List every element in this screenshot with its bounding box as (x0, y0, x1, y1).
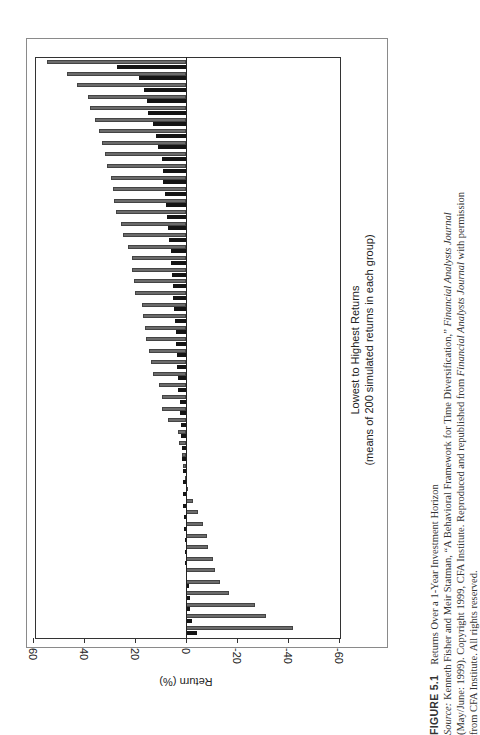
black-bar (166, 203, 186, 207)
plot-area (35, 57, 341, 639)
axis-tick-label: -60 (333, 648, 345, 664)
gray-bar (128, 245, 186, 249)
category-axis-title: Lowest to Highest Returns (348, 234, 362, 465)
axis-tick-label: 60 (27, 648, 39, 660)
axis-tick-label: 40 (78, 648, 90, 660)
black-bar (162, 157, 186, 161)
gray-bar (168, 418, 186, 422)
black-bar (144, 88, 186, 92)
black-bar (173, 284, 186, 288)
source-label: Source: (442, 703, 453, 735)
gray-bar (178, 430, 186, 434)
gray-bar (162, 407, 186, 411)
black-bar (178, 388, 186, 392)
black-bar (156, 134, 186, 138)
gray-bar (132, 268, 186, 272)
gray-bar (99, 129, 186, 133)
gray-bar (153, 372, 186, 376)
gray-bar (105, 152, 186, 156)
black-bar (169, 238, 186, 242)
black-bar (165, 192, 186, 196)
gray-bar (162, 395, 186, 399)
gray-bar (186, 614, 266, 618)
black-bar (177, 353, 186, 357)
source-text-2b: with permission (455, 192, 466, 259)
source-text-1: Kenneth Fisher and Meir Statman, “A Beha… (442, 329, 453, 700)
axis-tick (135, 638, 136, 643)
gray-bar (186, 591, 229, 595)
axis-tick-label: -20 (231, 648, 243, 664)
axis-tick-label: 0 (180, 648, 192, 654)
gray-bar (159, 383, 186, 387)
black-bar (147, 99, 186, 103)
gray-bar (143, 314, 186, 318)
black-bar (177, 365, 186, 369)
black-bar (176, 330, 186, 334)
gray-bar (114, 199, 186, 203)
gray-bar (102, 141, 186, 145)
value-axis-label: Return (%) (159, 676, 212, 688)
gray-bar (107, 164, 186, 168)
figure-title: Returns Over a 1-Year Investment Horizon (429, 484, 440, 665)
axis-tick (186, 638, 187, 643)
gray-bar (186, 603, 255, 607)
axis-tick-label: -40 (282, 648, 294, 664)
black-bar (163, 180, 186, 184)
figure-number: FIGURE 5.1 (428, 675, 440, 735)
gray-bar (186, 534, 207, 538)
black-bar (117, 65, 186, 69)
black-bar (167, 215, 186, 219)
black-bar (173, 296, 186, 300)
gray-bar (186, 568, 215, 572)
axis-tick (84, 638, 85, 643)
gray-bar (186, 522, 203, 526)
gray-bar (88, 95, 186, 99)
gray-bar (47, 60, 186, 64)
zero-axis-line (186, 57, 187, 639)
axis-tick (237, 638, 238, 643)
axis-tick-label: 20 (129, 648, 141, 660)
gray-bar (132, 256, 186, 260)
black-bar (139, 76, 186, 80)
gray-bar (111, 176, 186, 180)
black-bar (176, 342, 186, 346)
gray-bar (186, 545, 208, 549)
gray-bar (146, 337, 186, 341)
gray-bar (145, 326, 186, 330)
gray-bar (135, 291, 186, 295)
black-bar (186, 631, 197, 635)
gray-bar (142, 303, 186, 307)
gray-bar (186, 557, 213, 561)
axis-tick (288, 638, 289, 643)
source-text-2: (May/June: 1999). Copyright 1999, CFA In… (455, 379, 466, 735)
journal-name-1: Financial Analysts Journal (442, 212, 453, 326)
gray-bar (179, 441, 186, 445)
black-bar (178, 376, 186, 380)
gray-bar (151, 360, 186, 364)
gray-bar (186, 626, 293, 630)
gray-bar (123, 233, 186, 237)
axis-tick (33, 638, 34, 643)
black-bar (168, 226, 186, 230)
gray-bar (134, 279, 186, 283)
gray-bar (67, 72, 186, 76)
black-bar (153, 122, 186, 126)
black-bar (174, 307, 186, 311)
black-bar (158, 145, 186, 149)
gray-bar (113, 187, 186, 191)
gray-bar (121, 222, 186, 226)
category-axis-label: Lowest to Highest Returns (means of 200 … (348, 234, 376, 465)
black-bar (148, 111, 186, 115)
figure-caption: FIGURE 5.1Returns Over a 1-Year Investme… (428, 15, 480, 735)
gray-bar (90, 106, 186, 110)
black-bar (175, 319, 186, 323)
gray-bar (186, 510, 198, 514)
black-bar (163, 169, 186, 173)
axis-tick (339, 638, 340, 643)
category-axis-subtitle: (means of 200 simulated returns in each … (362, 234, 376, 465)
source-text-3: from CFA Institute. All rights reserved. (468, 570, 479, 735)
gray-bar (149, 349, 186, 353)
black-bar (171, 261, 186, 265)
gray-bar (77, 83, 186, 87)
journal-name-2: Financial Analysts Journal (455, 262, 466, 376)
